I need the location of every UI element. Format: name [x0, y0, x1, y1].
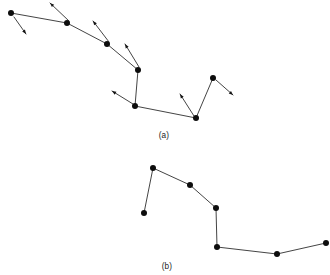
data-point [210, 75, 216, 81]
figure-root: (a) (b) [0, 0, 330, 275]
data-point [274, 251, 280, 257]
data-point [213, 205, 219, 211]
data-point [141, 210, 147, 216]
trajectory-figure: (a) (b) [0, 0, 330, 275]
data-point [187, 182, 193, 188]
panel-b-caption: (b) [162, 262, 173, 271]
data-point [214, 244, 220, 250]
data-point [135, 67, 141, 73]
panel-a-caption: (a) [159, 131, 170, 140]
data-point [8, 10, 14, 16]
data-point [150, 165, 156, 171]
data-point [323, 240, 329, 246]
